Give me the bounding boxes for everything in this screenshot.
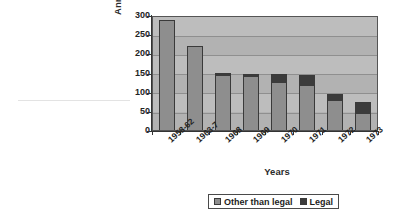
y-tick-label-300: 300 [124,10,150,20]
bar-1958-62 [159,20,175,130]
bar-segment-other-than-legal [160,21,174,130]
bar-slot [321,17,349,130]
bar-group [153,17,377,130]
bar-1969 [243,74,259,130]
plot-area [152,16,378,131]
y-tick-label-150: 150 [124,68,150,78]
bar-segment-other-than-legal [272,83,286,130]
bar-slot [181,17,209,130]
y-tick-label-200: 200 [124,48,150,58]
chart-figure: Annual numbers of deaths 0 50 100 150 20… [0,0,415,221]
bar-segment-legal [356,103,370,114]
bar-segment-other-than-legal [300,86,314,130]
x-axis-title: Years [232,166,322,177]
chart-legend: Other than legal Legal [208,194,339,209]
bar-segment-legal [300,76,314,85]
y-tick-label-50: 50 [124,106,150,116]
bar-1972 [327,94,343,130]
bar-1970 [271,74,287,130]
bar-segment-other-than-legal [244,77,258,130]
legend-swatch-icon-other-than-legal [214,198,221,205]
y-axis-tick-labels: 0 50 100 150 200 250 300 [120,0,150,221]
bar-slot [265,17,293,130]
legend-label-legal: Legal [310,197,334,207]
y-tick-label-100: 100 [124,87,150,97]
legend-item-legal: Legal [300,197,334,207]
y-axis-line [151,15,152,132]
x-tick-mark [152,131,153,135]
bar-slot [349,17,377,130]
bar-slot [209,17,237,130]
bar-1973 [355,102,371,130]
bar-1968 [215,73,231,130]
y-tick-label-250: 250 [124,29,150,39]
legend-label-other-than-legal: Other than legal [224,197,293,207]
bar-segment-legal [272,75,286,82]
bar-segment-other-than-legal [216,76,230,130]
legend-item-other-than-legal: Other than legal [214,197,293,207]
legend-swatch-icon-legal [300,198,307,205]
bar-slot [153,17,181,130]
bar-segment-other-than-legal [356,114,370,130]
bar-1971 [299,75,315,130]
bar-slot [293,17,321,130]
y-tick-label-0: 0 [124,125,150,135]
bar-segment-other-than-legal [328,101,342,130]
bar-slot [237,17,265,130]
